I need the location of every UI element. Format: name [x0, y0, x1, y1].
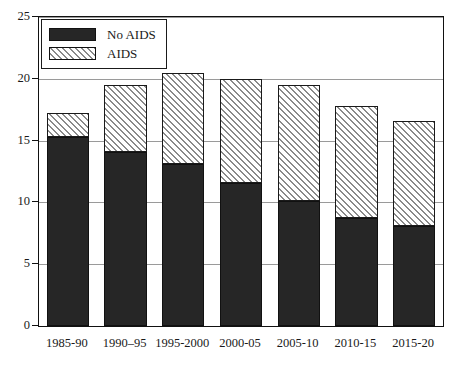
bar-segment-aids — [393, 121, 435, 226]
x-axis-label-7: 2015-20 — [392, 337, 434, 350]
y-axis-label-5: 5 — [0, 257, 30, 270]
bar-segment-aids — [335, 106, 377, 218]
y-axis-label-0: 0 — [0, 319, 30, 332]
y-axis-label-10: 10 — [0, 195, 30, 208]
bar-segment-no-aids — [278, 201, 320, 326]
y-tick-10 — [32, 201, 38, 202]
bar-segment-aids — [47, 113, 89, 136]
bar-segment-no-aids — [393, 226, 435, 326]
legend-label-no-aids: No AIDS — [107, 28, 156, 41]
bar-segment-aids — [278, 85, 320, 201]
x-axis-label-2: 1990–95 — [103, 337, 147, 350]
bar-segment-aids — [220, 79, 262, 183]
bar-segment-no-aids — [220, 183, 262, 326]
bar-segment-no-aids — [47, 137, 89, 326]
bar-segment-no-aids — [162, 164, 204, 326]
chart-legend: No AIDS AIDS — [41, 19, 167, 69]
bar-segment-no-aids — [335, 218, 377, 326]
x-axis-label-4: 2000-05 — [219, 337, 261, 350]
x-axis-label-6: 2010-15 — [335, 337, 377, 350]
bar-group — [335, 17, 377, 326]
hatched-swatch — [49, 47, 96, 60]
bar-group — [393, 17, 435, 326]
bar-segment-aids — [104, 85, 146, 152]
legend-label-aids: AIDS — [107, 47, 137, 60]
stacked-bar-chart: 0510152025 1985-901990–951995-20002000-0… — [0, 0, 458, 365]
legend-entry-no-aids: No AIDS — [49, 25, 156, 44]
y-tick-20 — [32, 78, 38, 79]
bar-segment-no-aids — [104, 152, 146, 326]
y-tick-5 — [32, 263, 38, 264]
legend-entry-aids: AIDS — [49, 44, 156, 63]
y-tick-25 — [32, 16, 38, 17]
y-axis-label-15: 15 — [0, 133, 30, 146]
bar-segment-aids — [162, 73, 204, 164]
bar-group — [162, 17, 204, 326]
x-axis-label-5: 2005-10 — [277, 337, 319, 350]
x-axis-label-3: 1995-2000 — [155, 337, 209, 350]
y-axis-label-20: 20 — [0, 72, 30, 85]
y-axis-label-25: 25 — [0, 10, 30, 23]
x-axis-label-1: 1985-90 — [46, 337, 88, 350]
y-tick-0 — [32, 325, 38, 326]
solid-dark-swatch — [49, 28, 96, 41]
bar-group — [278, 17, 320, 326]
bar-group — [220, 17, 262, 326]
y-tick-15 — [32, 140, 38, 141]
